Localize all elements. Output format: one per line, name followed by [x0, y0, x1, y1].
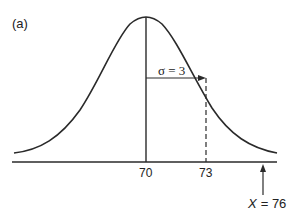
- x-equals-value: = 76: [261, 196, 287, 211]
- sigma-tick-label: 73: [199, 167, 212, 179]
- normal-distribution-diagram: [0, 0, 297, 217]
- sigma-arrowhead-icon: [198, 75, 206, 81]
- x76-arrowhead-icon: [260, 164, 266, 172]
- x-variable: X: [248, 196, 257, 211]
- panel-label: (a): [12, 17, 28, 30]
- mean-tick-label: 70: [139, 167, 152, 179]
- x-value-label: X= 76: [248, 197, 286, 210]
- sigma-label: σ = 3: [158, 64, 185, 77]
